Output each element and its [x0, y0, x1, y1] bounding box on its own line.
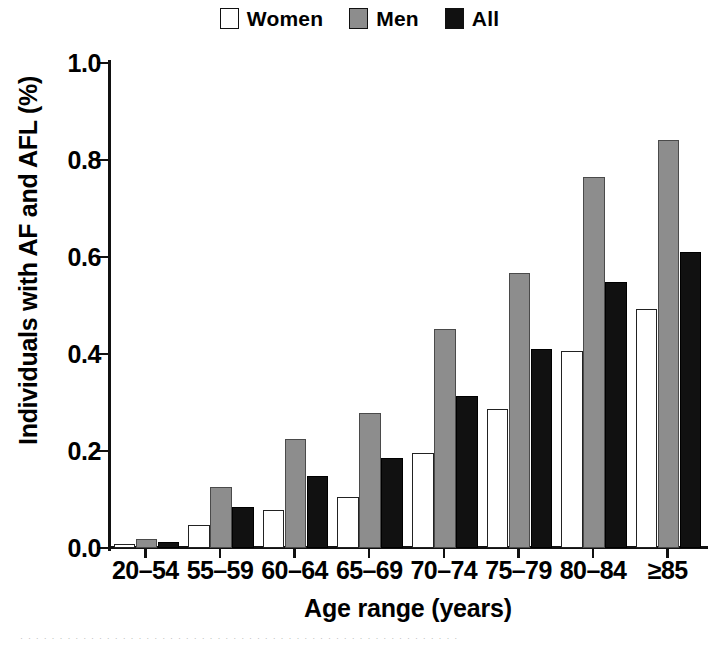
y-tick-label: 0.6 — [67, 243, 101, 272]
x-category-label: 80–84 — [556, 556, 631, 585]
y-tick-label: 0.8 — [67, 146, 101, 175]
x-category-label: ≥85 — [630, 556, 705, 585]
bar-men-4[interactable] — [434, 329, 456, 548]
bar-all-5[interactable] — [531, 349, 553, 548]
legend-label-women: Women — [247, 8, 323, 29]
bar-women-6[interactable] — [561, 351, 583, 548]
bar-all-2[interactable] — [307, 476, 329, 548]
bar-men-3[interactable] — [359, 413, 381, 548]
black-square-icon — [445, 8, 464, 29]
bar-group — [108, 63, 183, 548]
y-tick-label: 0.4 — [67, 340, 101, 369]
legend-label-men: Men — [376, 8, 419, 29]
y-tick-label: 0.0 — [67, 534, 101, 563]
legend-label-all: All — [472, 8, 499, 29]
bar-all-3[interactable] — [381, 458, 403, 548]
bar-men-1[interactable] — [210, 487, 232, 548]
legend-entry-all: All — [445, 8, 499, 29]
x-category-label: 20–54 — [108, 556, 183, 585]
x-category-label: 60–64 — [257, 556, 332, 585]
bar-all-7[interactable] — [680, 252, 702, 548]
bar-all-0[interactable] — [158, 542, 180, 548]
bar-women-1[interactable] — [188, 525, 210, 548]
bar-all-1[interactable] — [232, 507, 254, 548]
bar-all-6[interactable] — [605, 282, 627, 548]
y-tick-label: 1.0 — [67, 49, 101, 78]
bar-women-7[interactable] — [636, 309, 658, 548]
bar-group — [481, 63, 556, 548]
bar-group — [332, 63, 407, 548]
legend-entry-men: Men — [349, 8, 419, 29]
bar-women-3[interactable] — [337, 497, 359, 548]
x-axis-title: Age range (years) — [108, 594, 708, 623]
bar-group — [407, 63, 482, 548]
caption-strip: · · · · · · · · · · · · · · · · · · · · … — [20, 633, 699, 642]
bar-men-7[interactable] — [658, 140, 680, 548]
bar-men-2[interactable] — [285, 439, 307, 548]
x-category-label: 75–79 — [481, 556, 556, 585]
bar-women-0[interactable] — [114, 544, 136, 548]
bar-group — [556, 63, 631, 548]
legend-entry-women: Women — [220, 8, 323, 29]
plot-area: 0.00.20.40.60.81.0 — [108, 63, 705, 548]
y-tick-label: 0.2 — [67, 437, 101, 466]
bar-chart-figure: Women Men All 0.00.20.40.60.81.0 20–5455… — [0, 0, 719, 646]
bar-women-5[interactable] — [487, 409, 509, 548]
bar-men-0[interactable] — [136, 539, 158, 548]
x-category-label: 55–59 — [183, 556, 258, 585]
bar-men-6[interactable] — [583, 177, 605, 549]
bar-group — [630, 63, 705, 548]
bar-all-4[interactable] — [456, 396, 478, 548]
chart-legend: Women Men All — [0, 8, 719, 29]
bar-men-5[interactable] — [509, 273, 531, 548]
x-category-label: 65–69 — [332, 556, 407, 585]
bar-group — [183, 63, 258, 548]
white-square-icon — [220, 8, 239, 29]
gray-square-icon — [349, 8, 368, 29]
bar-women-2[interactable] — [263, 510, 285, 548]
bar-group — [257, 63, 332, 548]
x-category-label: 70–74 — [407, 556, 482, 585]
bar-women-4[interactable] — [412, 453, 434, 548]
y-axis-title: Individuals with AF and AFL (%) — [14, 26, 43, 496]
